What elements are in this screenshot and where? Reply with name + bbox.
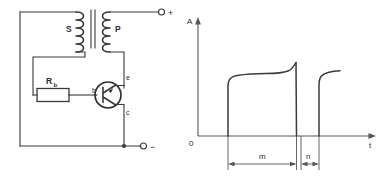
waveform-pulse-1-rise xyxy=(228,63,296,137)
waveform-pulse-2-rise xyxy=(319,71,340,136)
dimension-arrow-m-left xyxy=(228,162,235,167)
junction-dot-collector-rail xyxy=(122,144,126,148)
x-axis-arrowhead xyxy=(369,133,377,139)
transistor-emitter-lead xyxy=(103,86,115,94)
origin-label: 0 xyxy=(189,139,194,148)
positive-terminal-label: + xyxy=(168,8,173,18)
emitter-label: e xyxy=(126,74,130,81)
interval-n-label: n xyxy=(306,152,310,161)
circuit-diagram: S P + − R b xyxy=(20,8,173,152)
negative-terminal-circle xyxy=(141,143,147,149)
transformer-primary-winding xyxy=(103,12,111,52)
transistor-collector-lead xyxy=(103,97,115,105)
x-axis-label: t xyxy=(369,141,372,150)
transformer-secondary-winding xyxy=(76,12,84,52)
wire-collector-to-bottom xyxy=(115,105,124,147)
secondary-winding-label: S xyxy=(66,24,72,34)
base-resistor-body xyxy=(37,89,69,102)
base-resistor-label: R xyxy=(46,76,52,86)
dimension-arrow-m-right xyxy=(290,162,297,167)
technical-figure: S P + − R b xyxy=(0,0,388,176)
dimension-arrow-n-right xyxy=(313,162,320,167)
y-axis-label: A xyxy=(187,17,193,26)
base-resistor-subscript: b xyxy=(54,82,58,88)
negative-terminal-label: − xyxy=(150,142,155,152)
base-label: b xyxy=(92,87,96,94)
figure-container: S P + − R b xyxy=(0,0,388,176)
y-axis-arrowhead xyxy=(195,17,201,25)
dimension-arrow-n-left xyxy=(301,162,308,167)
collector-label: c xyxy=(126,109,130,116)
positive-terminal-circle xyxy=(159,9,165,15)
primary-winding-label: P xyxy=(115,24,121,34)
interval-m-label: m xyxy=(259,152,266,161)
waveform-chart: A t 0 m n xyxy=(187,17,376,170)
waveform-pulse-1-fall xyxy=(296,63,297,137)
